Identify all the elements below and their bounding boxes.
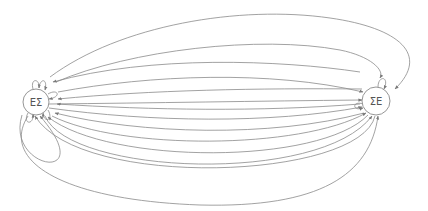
edge-low-1	[52, 113, 366, 141]
node-right: ΣΕ	[362, 87, 390, 115]
edge-low-4	[21, 116, 378, 205]
edge-into-left-upper	[53, 62, 360, 82]
edge-low-2	[48, 115, 368, 153]
node-left: ΕΣ	[23, 89, 49, 115]
edge-top-outer	[50, 14, 410, 89]
edge-low-6	[20, 115, 60, 162]
self-loop-left-top	[32, 81, 39, 89]
edge-mid-2	[58, 89, 362, 99]
node-right-label: ΣΕ	[370, 96, 383, 107]
self-loop-left-top2	[39, 81, 46, 90]
edge-low-5	[35, 116, 375, 168]
state-diagram: ΕΣ ΣΕ	[0, 0, 428, 211]
self-loop-left-right	[48, 92, 57, 99]
edge-low-3	[45, 116, 372, 164]
node-left-label: ΕΣ	[30, 97, 43, 108]
edge-mid-4	[57, 104, 360, 109]
edge-mid-6	[55, 113, 364, 130]
edge-top-second	[56, 44, 381, 82]
edge-mid-5	[49, 107, 362, 119]
edge-mid-3	[49, 100, 362, 104]
